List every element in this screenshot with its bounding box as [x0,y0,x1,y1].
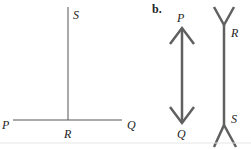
label-q-b: Q [177,127,186,141]
label-p-a: P [1,118,10,132]
diagram-canvas: S P R Q b. P Q R S [0,0,251,150]
line-pq-double-arrow [170,28,194,123]
label-r-b: R [230,26,239,40]
part-label-b: b. [152,2,162,16]
label-p-b: P [176,11,185,25]
label-s-b: S [231,112,237,126]
figure-a: S P R Q [1,7,136,141]
label-q-a: Q [127,118,136,132]
figure-b: b. P Q R S [152,2,239,147]
label-r-a: R [63,127,72,141]
label-s-a: S [73,8,79,22]
